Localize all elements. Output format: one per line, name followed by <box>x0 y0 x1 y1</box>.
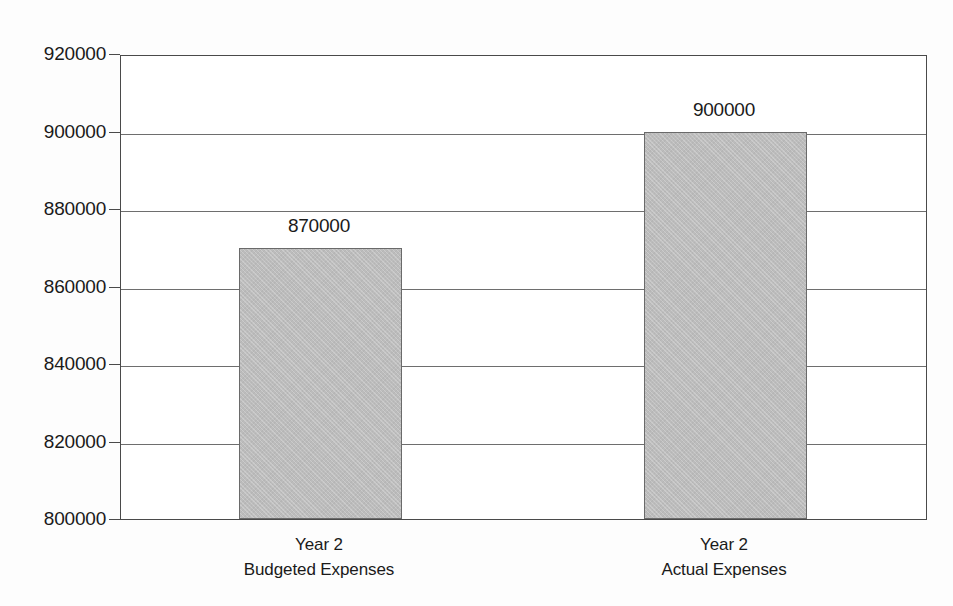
y-axis-tick-label: 900000 <box>44 121 106 143</box>
y-axis-tick-mark <box>109 209 120 210</box>
x-axis-category-label: Year 2Actual Expenses <box>584 532 864 582</box>
x-axis-category-label-line: Year 2 <box>584 532 864 557</box>
x-axis-category-label: Year 2Budgeted Expenses <box>179 532 459 582</box>
y-axis-tick-mark <box>109 442 120 443</box>
y-axis-tick-label: 880000 <box>44 198 106 220</box>
y-axis-tick-mark <box>109 364 120 365</box>
y-axis-tick-mark <box>109 287 120 288</box>
plot-area <box>120 55 927 520</box>
x-axis-category-label-line: Budgeted Expenses <box>179 557 459 582</box>
y-axis-tick-mark <box>109 132 120 133</box>
bar-value-label: 870000 <box>229 215 409 237</box>
y-axis-tick-label: 800000 <box>44 508 106 530</box>
bar <box>644 132 807 520</box>
y-axis-tick-mark <box>109 519 120 520</box>
y-axis-tick-label: 920000 <box>44 43 106 65</box>
x-axis-category-label-line: Actual Expenses <box>584 557 864 582</box>
y-axis-tick-label: 820000 <box>44 431 106 453</box>
x-axis-category-label-line: Year 2 <box>179 532 459 557</box>
bar-chart-figure: 8000008200008400008600008800009000009200… <box>0 0 953 606</box>
bar-value-label: 900000 <box>634 99 814 121</box>
y-axis-tick-mark <box>109 54 120 55</box>
y-axis-tick-label: 860000 <box>44 276 106 298</box>
y-axis-tick-label: 840000 <box>44 353 106 375</box>
bar <box>239 248 402 519</box>
